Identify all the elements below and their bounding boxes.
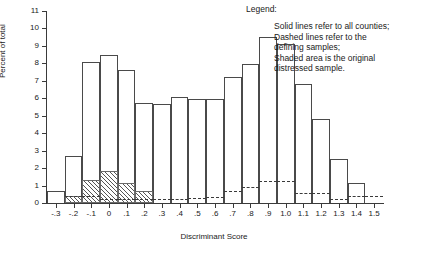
histogram-bar [312,119,330,203]
x-tick [162,203,163,208]
x-tick-label: .8 [247,210,254,218]
y-tick-label: 8 [35,59,39,67]
histogram-bar [188,99,206,203]
x-tick [91,203,92,208]
legend: Legend: Solid lines refer to all countie… [246,4,426,74]
dashed-defining-sample-segment [118,199,136,200]
x-tick [180,203,181,208]
histogram-bar [135,103,153,203]
x-tick [197,203,198,208]
y-tick [42,133,47,134]
dashed-defining-sample-segment [100,199,118,200]
x-tick-label: 1.2 [316,210,327,218]
dashed-defining-sample-segment [188,198,206,199]
histogram-bar [242,64,260,203]
dashed-defining-sample-segment [365,196,383,197]
dashed-defining-sample-segment [242,187,260,188]
y-tick [42,116,47,117]
x-tick-label: .9 [265,210,272,218]
x-axis-label: Discriminant Score [180,232,247,241]
y-tick [42,63,47,64]
y-tick [42,203,47,204]
x-tick-label: 1.4 [351,210,362,218]
y-tick [42,151,47,152]
dashed-defining-sample-segment [65,196,83,197]
x-tick-label: .4 [176,210,183,218]
y-tick-label: 0 [35,199,39,207]
x-tick-label: -.2 [69,210,78,218]
y-tick [42,11,47,12]
x-tick [339,203,340,208]
dashed-defining-sample-segment [171,199,189,200]
x-tick-label: .3 [159,210,166,218]
x-tick-label: .6 [212,210,219,218]
x-tick-label: .7 [229,210,236,218]
x-tick [356,203,357,208]
x-tick [268,203,269,208]
dashed-defining-sample-segment [348,196,366,197]
dashed-defining-sample-segment [224,191,242,192]
histogram-bar [47,191,65,203]
histogram-bar [224,77,242,203]
histogram-bar [171,97,189,203]
dashed-defining-sample-segment [153,199,171,200]
x-tick [127,203,128,208]
histogram-bar [348,183,366,203]
chart-figure: Percent of total Discriminant Score 0123… [0,0,428,256]
y-tick-label: 3 [35,147,39,155]
x-tick [74,203,75,208]
dashed-defining-sample-segment [259,181,277,182]
histogram-bar [206,99,224,203]
dashed-defining-sample-segment [135,199,153,200]
histogram-bar [295,84,313,203]
x-tick-label: 1.1 [298,210,309,218]
x-tick-label: 0 [107,210,111,218]
dashed-defining-sample-segment [295,193,313,194]
dashed-defining-sample-segment [206,197,224,198]
y-tick-label: 5 [35,112,39,120]
x-tick [109,203,110,208]
histogram-bar [330,159,348,203]
y-tick-label: 9 [35,42,39,50]
legend-title: Legend: [246,4,426,14]
x-tick-label: .2 [141,210,148,218]
x-tick [286,203,287,208]
y-tick-label: 6 [35,94,39,102]
dashed-defining-sample-segment [277,181,295,182]
x-tick [233,203,234,208]
y-tick-label: 11 [31,7,39,15]
x-tick [56,203,57,208]
y-axis-label: Percent of total [0,24,7,78]
y-tick [42,168,47,169]
legend-body: Solid lines refer to all counties; Dashe… [274,21,426,74]
x-tick-label: 1.3 [333,210,344,218]
y-tick [42,28,47,29]
x-tick-label: 1.0 [280,210,291,218]
x-tick [250,203,251,208]
x-tick-label: -.3 [51,210,60,218]
x-tick [303,203,304,208]
dashed-defining-sample-segment [312,193,330,194]
histogram-bar [153,104,171,203]
dashed-defining-sample-segment [330,199,348,200]
y-tick-label: 2 [35,164,39,172]
y-tick-label: 1 [35,182,39,190]
y-tick-label: 10 [30,24,39,32]
y-tick-label: 4 [35,129,39,137]
y-tick [42,186,47,187]
x-tick-label: 1.5 [369,210,380,218]
shaded-distressed-bar [118,183,136,203]
y-tick [42,81,47,82]
y-tick-label: 7 [35,77,39,85]
shaded-distressed-bar [65,196,83,203]
x-tick-label: -.1 [87,210,96,218]
x-tick-label: .1 [123,210,130,218]
x-tick [374,203,375,208]
shaded-distressed-bar [135,191,153,203]
shaded-distressed-bar [82,180,100,203]
dashed-defining-sample-segment [82,196,100,197]
y-tick [42,46,47,47]
y-tick [42,98,47,99]
x-tick [215,203,216,208]
x-tick [321,203,322,208]
